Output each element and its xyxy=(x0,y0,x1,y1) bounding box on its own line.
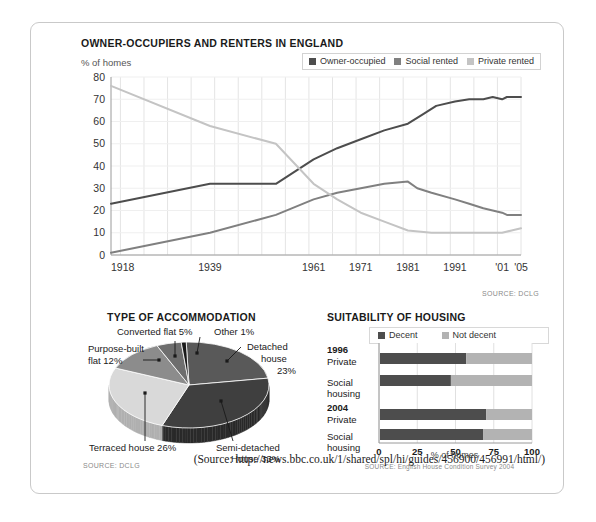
pie-slice-side xyxy=(136,417,138,433)
pie-label-converted-flat: Converted flat 5% xyxy=(117,326,193,337)
pie-slice-side xyxy=(240,417,242,433)
pie-label-detached-line2: house xyxy=(261,353,287,364)
pie-slice-side xyxy=(174,427,177,442)
pie-slice-side xyxy=(169,427,172,442)
bar-row-label-2004-social-line1: Social xyxy=(327,431,353,442)
pie-slice-side xyxy=(223,423,226,439)
bar-segment-not-decent xyxy=(483,429,532,440)
bar-chart-legend: Decent Not decent xyxy=(369,327,549,344)
x-tick-label: 1971 xyxy=(349,261,373,273)
pie-slice-side xyxy=(188,428,191,443)
x-axis-tick-labels: 191819391961197119811991'01'05 xyxy=(111,261,528,273)
pie-slice-side xyxy=(242,416,244,432)
y-tick-label: 20 xyxy=(93,204,105,216)
x-tick-label: 1981 xyxy=(396,261,420,273)
pie-slice-side xyxy=(226,423,228,439)
pie-label-detached-line3: 23% xyxy=(277,365,297,376)
line-chart-source: SOURCE: DCLG xyxy=(482,290,539,297)
pie-slice-side xyxy=(142,420,144,436)
pie-slice-side xyxy=(256,407,257,423)
bar-segment-decent xyxy=(380,375,451,386)
pie-leader-dot xyxy=(195,351,198,354)
pie-slice-side xyxy=(196,428,199,443)
pie-slice-side xyxy=(182,428,185,443)
legend-label: Private rented xyxy=(478,56,534,66)
pie-slice-side xyxy=(193,428,196,443)
pie-slice-side xyxy=(233,420,235,436)
pie-slice-side xyxy=(138,418,140,434)
bar-group-label-1996: 1996 xyxy=(327,344,348,355)
pie-slice-side xyxy=(121,408,123,424)
x-tick-label: 1939 xyxy=(198,261,222,273)
bar-group-label-2004: 2004 xyxy=(327,402,349,413)
pie-slice-side xyxy=(253,410,255,426)
y-tick-label: 60 xyxy=(93,115,105,127)
pie-slice-side xyxy=(218,425,221,441)
legend-swatch-icon xyxy=(442,332,449,339)
line-chart-axis-title: % of homes xyxy=(81,57,131,68)
pie-slice-side xyxy=(125,411,127,427)
pie-slice-side xyxy=(180,428,183,443)
pie-slice-side xyxy=(250,412,252,428)
pie-label-terraced: Terraced house 26% xyxy=(89,442,177,453)
pie-slice-side xyxy=(132,415,134,431)
x-tick-label: '05 xyxy=(514,261,528,273)
legend-label: Not decent xyxy=(453,330,497,340)
line-chart-legend: Owner-occupied Social rented Private ren… xyxy=(302,53,541,70)
bar-segment-not-decent xyxy=(451,375,532,386)
pie-slice-side xyxy=(119,405,120,421)
pie-slice-side xyxy=(140,419,142,435)
pie-slice-side xyxy=(237,418,239,434)
y-tick-label: 70 xyxy=(93,93,105,105)
pie-chart-plot: Converted flat 5% Other 1% Purpose-built… xyxy=(81,323,316,463)
bar-segment-decent xyxy=(380,429,483,440)
pie-slice-side xyxy=(154,424,157,440)
legend-item-social-rented: Social rented xyxy=(394,56,458,66)
pie-slice-side xyxy=(213,426,216,441)
bar-row-label-2004-private: Private xyxy=(327,414,357,425)
pie-slice-side xyxy=(207,426,210,441)
pie-slice-side xyxy=(166,426,169,441)
pie-slice-side xyxy=(191,428,194,443)
x-tick-label: 1991 xyxy=(443,261,467,273)
pie-slice-side xyxy=(171,427,174,442)
legend-label: Social rented xyxy=(405,56,458,66)
pie-slice-side xyxy=(152,423,154,439)
pie-slice-side xyxy=(215,425,218,441)
pie-slice-side xyxy=(163,426,166,441)
x-tick-label: '01 xyxy=(495,261,509,273)
pie-slice-side xyxy=(177,427,180,442)
pie-slice-side xyxy=(120,407,121,423)
y-tick-label: 0 xyxy=(99,249,105,261)
legend-item-not-decent: Not decent xyxy=(442,330,497,340)
pie-slice-side xyxy=(248,413,250,429)
pie-leader-dot xyxy=(225,359,228,362)
x-tick-label: 1961 xyxy=(302,261,326,273)
y-tick-label: 10 xyxy=(93,226,105,238)
pie-slice-side xyxy=(235,419,237,435)
pie-slice-side xyxy=(202,427,205,442)
pie-label-semi-line1: Semi-detached xyxy=(216,442,280,453)
bar-chart-title: SUITABILITY OF HOUSING xyxy=(327,311,552,323)
bar-chart-plot: 0255075100 1996 Private Social housing 2… xyxy=(327,343,552,463)
source-citation: (Source: http://news.bbc.co.uk/1/shared/… xyxy=(31,453,545,465)
x-tick-label: 1918 xyxy=(111,261,135,273)
legend-item-decent: Decent xyxy=(378,330,418,340)
pie-label-purpose-built-line2: flat 12% xyxy=(88,355,123,366)
pie-slice-side xyxy=(130,414,132,430)
pie-slice-side xyxy=(126,412,128,428)
legend-swatch-icon xyxy=(378,332,385,339)
y-tick-label: 40 xyxy=(93,160,105,172)
pie-slice-side xyxy=(251,411,253,427)
legend-label: Owner-occupied xyxy=(320,56,386,66)
pie-slice-side xyxy=(160,425,163,441)
pie-slice-side xyxy=(147,422,149,438)
pie-slice-side xyxy=(199,427,202,442)
y-tick-label: 80 xyxy=(93,73,105,83)
line-chart-title: OWNER-OCCUPIERS AND RENTERS IN ENGLAND xyxy=(81,37,541,49)
y-axis-tick-labels: 01020304050607080 xyxy=(93,73,105,261)
pie-slice-side xyxy=(134,416,136,432)
pie-slice-side xyxy=(258,406,259,422)
bar-row-label-1996-private: Private xyxy=(327,356,357,367)
pie-leader-dot xyxy=(173,354,176,357)
